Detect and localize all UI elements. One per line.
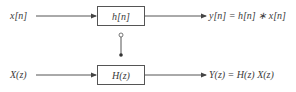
- z-system-label: H(z): [112, 70, 130, 81]
- time-input-label: x[n]: [10, 10, 27, 22]
- z-system-box: H(z): [97, 65, 145, 85]
- connector-filled-end: [119, 53, 123, 57]
- z-input-label: X(z): [10, 69, 27, 81]
- time-system-box: h[n]: [97, 6, 145, 26]
- time-output-label: y[n] = h[n] ∗ x[n]: [209, 10, 286, 22]
- connector-open-end: [119, 33, 123, 37]
- time-system-label: h[n]: [112, 11, 130, 22]
- z-output-label: Y(z) = H(z) X(z): [209, 69, 274, 81]
